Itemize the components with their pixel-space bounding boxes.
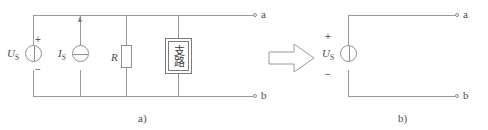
terminal-b-right-label: b [463,90,469,101]
right-voltage-source-minus-sign: − [325,70,331,80]
resistor-top-lead [126,15,127,45]
transform-arrow-icon [268,42,316,74]
branch-box-label: 支路 [173,45,185,67]
circuit-figure: US + − IS R 支路 a b a) [0,0,488,130]
right-circuit-caption: b) [398,112,407,124]
right-top-rail [348,15,455,16]
voltage-source-plus-sign: + [35,35,41,45]
right-source-bottom-lead [348,70,349,97]
resistor-bottom-lead [126,68,127,97]
current-source-label: IS [58,48,66,62]
terminal-a-right [455,13,459,17]
voltage-source-minus-sign: − [35,65,41,75]
right-voltage-source-bar-icon [349,46,350,61]
voltage-source-bottom-lead [33,70,34,97]
current-direction-arrow-icon [78,16,82,22]
branch-box-bottom-lead [178,74,179,97]
branch-box-top-lead [178,15,179,39]
terminal-b-left-label: b [261,90,267,101]
right-bottom-rail [348,96,455,97]
terminal-a-left [253,13,257,17]
branch-box-inner-border: 支路 [168,41,189,71]
current-source-symbol [72,45,89,62]
left-bottom-rail [33,96,253,97]
current-source-bottom-lead [80,70,81,97]
voltage-source-bar-icon [34,46,35,61]
resistor-label: R [111,52,118,63]
terminal-b-right [455,94,459,98]
left-top-rail [33,15,253,16]
left-circuit-caption: a) [138,112,147,124]
terminal-a-right-label: a [463,9,468,20]
terminal-a-left-label: a [261,9,266,20]
voltage-source-symbol [25,45,42,62]
voltage-source-label: US [7,48,19,62]
right-voltage-source-plus-sign: + [325,32,331,42]
resistor-symbol [121,45,132,68]
terminal-b-left [253,94,257,98]
current-source-bar-icon [73,54,88,55]
right-voltage-source-label: US [322,48,334,62]
branch-box: 支路 [165,38,192,74]
right-voltage-source-symbol [340,45,357,62]
